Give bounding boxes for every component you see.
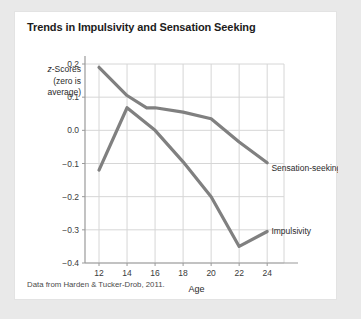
line-chart-svg: 0.20.10.0−0.1−0.2−0.3−0.4 12141618202224… (15, 12, 338, 301)
y-tick-label: 0.1 (67, 92, 79, 102)
y-tick-label: 0.2 (67, 59, 79, 69)
y-tick-label: 0.0 (67, 125, 79, 135)
series-label: Sensation-seeking (271, 163, 338, 173)
series-label: Impulsivity (271, 226, 311, 236)
plot-area: 0.20.10.0−0.1−0.2−0.3−0.4 12141618202224… (15, 12, 338, 301)
x-tick-label: 22 (234, 268, 244, 278)
y-tick-label: −0.3 (62, 225, 79, 235)
x-axis-label: Age (188, 284, 204, 294)
series-inline-labels: Sensation-seekingImpulsivity (271, 163, 338, 236)
y-tick-label: −0.4 (62, 258, 79, 268)
y-tick-label: −0.2 (62, 192, 79, 202)
source-note: Data from Harden & Tucker-Drob, 2011. (27, 280, 165, 289)
x-tick-label: 14 (122, 268, 132, 278)
x-tick-label: 24 (262, 268, 272, 278)
x-tick-label: 16 (150, 268, 160, 278)
y-tick-label: −0.1 (62, 159, 79, 169)
x-axis-tick-labels: 12141618202224 (94, 263, 272, 278)
x-tick-label: 18 (178, 268, 188, 278)
figure-card: Trends in Impulsivity and Sensation Seek… (14, 11, 337, 300)
y-axis-tick-labels: 0.20.10.0−0.1−0.2−0.3−0.4 (62, 59, 85, 268)
x-tick-label: 12 (94, 268, 104, 278)
x-tick-label: 20 (206, 268, 216, 278)
